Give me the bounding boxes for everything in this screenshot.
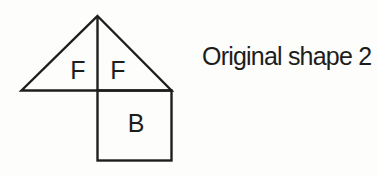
figure-caption: Original shape 2 [202,41,378,71]
label-square: B [128,109,145,137]
label-right-triangle: F [110,56,125,84]
figure-canvas: F F B Original shape 2 [0,0,378,176]
label-left-triangle: F [70,56,85,84]
original-shape-figure: F F B [0,0,378,176]
